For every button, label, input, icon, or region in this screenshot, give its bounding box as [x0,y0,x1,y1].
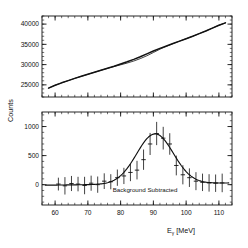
figure-root: 2500030000350004000060708090100110050010… [0,0,248,248]
x-axis-title: Eγ [MeV] [167,226,195,236]
y-tick-label: 30000 [21,61,40,68]
top-panel-data [49,23,226,88]
y-tick-label: 40000 [21,20,40,27]
background-fit-curve [49,23,226,88]
x-tick-label: 110 [214,209,225,216]
axis-labels: CountsEγ [MeV] [6,99,195,236]
y-tick-label: 25000 [21,81,40,88]
x-tick-label: 80 [117,209,125,216]
plot-frame [42,16,232,97]
y-tick-label: 35000 [21,41,40,48]
top-panel-ticks: 25000300003500040000 [21,16,232,97]
two-panel-spectrum-plot: 2500030000350004000060708090100110050010… [0,0,248,248]
bottom-panel-errorbars [56,122,224,195]
x-tick-label: 60 [51,209,59,216]
background-subtracted-label: Background Subtracted [113,186,178,193]
x-tick-label: 90 [150,209,158,216]
y-axis-title: Counts [6,99,15,122]
x-tick-label: 100 [181,209,192,216]
bottom-panel-ticks: 6070809010011005001000 [24,112,232,216]
y-tick-label: 500 [28,152,39,159]
x-tick-label: 70 [84,209,92,216]
bottom-panel-annotation: Background Subtracted [113,186,178,193]
top-panel-frame [42,16,232,97]
y-tick-label: 1000 [24,123,39,130]
y-tick-label: 0 [35,181,39,188]
